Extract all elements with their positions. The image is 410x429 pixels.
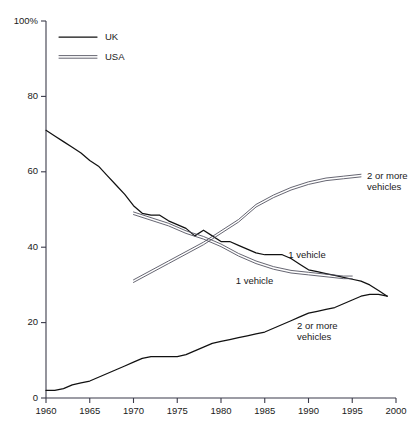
legend-label-uk: UK [105, 31, 119, 42]
annotation-label: 1 vehicle [288, 249, 326, 260]
y-axis: 020406080100% [14, 15, 46, 403]
series-line-uk-2-or-more-vehicles [46, 294, 387, 390]
y-tick-group: 020406080100% [14, 15, 46, 403]
annotation-label: vehicles [367, 181, 402, 192]
series-line-usa-2-or-more-vehicles-stroke2 [134, 177, 362, 283]
x-tick-label: 1980 [210, 405, 231, 416]
vehicle-ownership-line-chart: 020406080100% 19601965197019751980198519… [0, 0, 410, 429]
series-group [46, 130, 387, 390]
y-tick-label: 0 [33, 392, 38, 403]
annotation-label: vehicles [297, 331, 332, 342]
annotation-group: 2 or morevehicles1 vehicle1 vehicle2 or … [236, 170, 408, 343]
y-tick-label: 80 [27, 90, 38, 101]
y-tick-label: 40 [27, 241, 38, 252]
x-tick-label: 1975 [167, 405, 188, 416]
x-axis: 196019651970197519801985199019952000 [35, 398, 406, 416]
y-tick-label: 60 [27, 165, 38, 176]
y-tick-label: 100% [14, 15, 39, 26]
legend: UKUSA [59, 31, 125, 62]
x-tick-label: 1985 [254, 405, 275, 416]
x-tick-label: 1990 [298, 405, 319, 416]
y-tick-label: 20 [27, 316, 38, 327]
x-tick-label: 2000 [385, 405, 406, 416]
annotation-label: 1 vehicle [236, 275, 274, 286]
x-tick-label: 1970 [123, 405, 144, 416]
x-tick-group: 196019651970197519801985199019952000 [35, 398, 406, 416]
chart-svg: 020406080100% 19601965197019751980198519… [0, 0, 410, 429]
series-line-usa-1-vehicle-stroke1 [134, 212, 353, 276]
x-tick-label: 1965 [79, 405, 100, 416]
x-tick-label: 1995 [342, 405, 363, 416]
x-tick-label: 1960 [35, 405, 56, 416]
annotation-label: 2 or more [297, 320, 338, 331]
annotation-label: 2 or more [367, 170, 408, 181]
series-line-uk-1-vehicle [46, 130, 387, 296]
legend-label-usa: USA [105, 51, 125, 62]
